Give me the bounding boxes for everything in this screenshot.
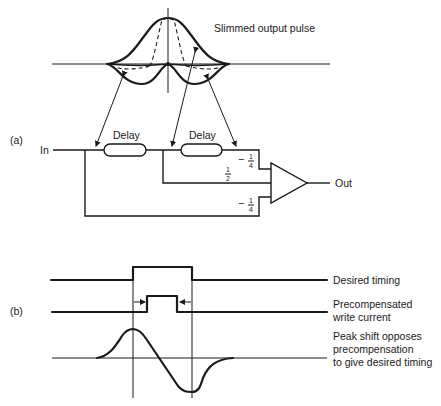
precompensation-timing: (b) Desired timing Precompensated write … [10, 267, 432, 398]
svg-text:−: − [238, 153, 244, 165]
delay-2-label: Delay [189, 129, 217, 141]
delay-1-label: Delay [113, 129, 141, 141]
delay-element-1 [104, 144, 146, 156]
transversal-filter-circuit: (a) In Delay Delay Out − 1 4 1 2 [10, 129, 352, 216]
svg-text:1: 1 [249, 153, 253, 160]
summing-amplifier [271, 163, 307, 203]
weight-middle: 1 2 [225, 166, 231, 182]
svg-text:4: 4 [249, 206, 253, 213]
precompensated-label-line1: Precompensated [333, 298, 413, 310]
precompensated-label-line2: write current [332, 311, 391, 323]
svg-text:−: − [238, 197, 244, 209]
svg-text:1: 1 [226, 166, 230, 173]
desired-timing-trace [51, 267, 327, 280]
slimmed-pulse-plot: Slimmed output pulse [52, 8, 330, 93]
svg-text:1: 1 [249, 197, 253, 204]
middle-tap-line [163, 150, 271, 183]
delay-element-2 [181, 144, 222, 156]
svg-text:4: 4 [249, 162, 253, 169]
output-label: Out [335, 177, 352, 189]
slimmed-pulse-undershoot-left [111, 66, 150, 69]
svg-text:2: 2 [226, 175, 230, 182]
input-label: In [40, 144, 49, 156]
part-a-label: (a) [10, 134, 23, 146]
part-b-label: (b) [10, 305, 23, 317]
readback-waveform [97, 329, 233, 392]
desired-timing-label: Desired timing [333, 274, 400, 286]
pulse-center-dot [166, 62, 170, 66]
peak-shift-label-line2: precompensation [333, 343, 414, 355]
pulse-caption: Slimmed output pulse [214, 22, 315, 34]
pulse-slimming-diagram: Slimmed output pulse (a) In Delay Delay [0, 0, 441, 406]
weight-top: − 1 4 [238, 153, 254, 169]
weight-bottom: − 1 4 [238, 197, 254, 213]
precompensated-trace [52, 296, 327, 312]
peak-shift-label-line3: to give desired timing [333, 356, 432, 368]
peak-shift-label-line1: Peak shift opposes [333, 330, 422, 342]
